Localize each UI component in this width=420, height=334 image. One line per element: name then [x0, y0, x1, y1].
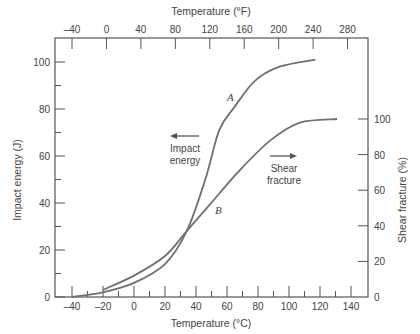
svg-text:40: 40: [374, 221, 386, 232]
svg-text:60: 60: [39, 151, 51, 162]
shear-fracture-annotation: Shear fracture: [267, 153, 301, 186]
svg-text:80: 80: [170, 24, 182, 35]
svg-text:0: 0: [374, 292, 380, 303]
svg-text:200: 200: [270, 24, 287, 35]
svg-text:energy: energy: [170, 155, 201, 166]
svg-text:40: 40: [135, 24, 147, 35]
svg-text:–40: –40: [64, 24, 81, 35]
svg-text:120: 120: [312, 301, 329, 312]
svg-text:Shear: Shear: [271, 163, 298, 174]
svg-text:–20: –20: [95, 301, 112, 312]
arrow-right-icon: [290, 153, 297, 159]
svg-text:40: 40: [39, 198, 51, 209]
svg-text:0: 0: [104, 24, 110, 35]
svg-text:20: 20: [39, 245, 51, 256]
svg-text:0: 0: [44, 292, 50, 303]
curve-b-label: B: [215, 204, 222, 216]
svg-text:20: 20: [374, 256, 386, 267]
y2-axis-title: Shear fracture (%): [396, 157, 408, 243]
impact-energy-annotation: Impact energy: [170, 133, 201, 166]
x2-axis-title: Temperature (°F): [171, 5, 250, 17]
svg-text:40: 40: [190, 301, 202, 312]
svg-text:100: 100: [33, 57, 50, 68]
svg-text:100: 100: [374, 114, 391, 125]
svg-text:240: 240: [305, 24, 322, 35]
svg-text:140: 140: [343, 301, 360, 312]
ductile-brittle-transition-chart: –40–20020406080100120140–400408012016020…: [0, 0, 420, 334]
svg-text:60: 60: [374, 185, 386, 196]
svg-text:280: 280: [339, 24, 356, 35]
svg-text:fracture: fracture: [267, 175, 301, 186]
svg-text:60: 60: [221, 301, 233, 312]
svg-text:100: 100: [281, 301, 298, 312]
svg-text:0: 0: [131, 301, 137, 312]
svg-text:160: 160: [236, 24, 253, 35]
plot-frame: [55, 38, 368, 297]
svg-text:20: 20: [159, 301, 171, 312]
svg-text:80: 80: [374, 150, 386, 161]
arrow-left-icon: [170, 133, 177, 139]
svg-text:120: 120: [201, 24, 218, 35]
curve-a-label: A: [226, 91, 234, 103]
svg-text:80: 80: [39, 104, 51, 115]
y-axis-title: Impact energy (J): [11, 139, 23, 221]
svg-text:–40: –40: [64, 301, 81, 312]
x-axis-title: Temperature (°C): [171, 317, 252, 329]
axis-ticks: –40–20020406080100120140–400408012016020…: [33, 24, 391, 312]
svg-text:80: 80: [252, 301, 264, 312]
svg-text:Impact: Impact: [170, 143, 200, 154]
